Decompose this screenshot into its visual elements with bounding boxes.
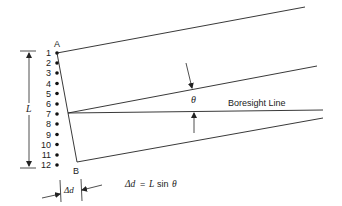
element-label: 4 [46, 79, 51, 89]
element-dot [55, 112, 59, 116]
element-dot [55, 92, 59, 96]
element-dot [55, 71, 59, 75]
element-dot [55, 133, 59, 137]
element-label: 10 [41, 140, 51, 150]
element-label: 12 [41, 160, 51, 170]
element-label: 3 [46, 68, 51, 78]
ray-top [57, 7, 305, 53]
element-dot [55, 82, 59, 86]
element-label: 1 [46, 48, 51, 58]
ray-bottom [77, 118, 323, 162]
element-label: 11 [42, 150, 51, 160]
element-label: 6 [46, 99, 51, 109]
element-label: 7 [46, 109, 51, 119]
wavefront-line [57, 53, 77, 162]
element-label: 9 [46, 130, 51, 140]
element-dot [55, 102, 59, 106]
element-label: 2 [46, 58, 51, 68]
element-dot [55, 122, 59, 126]
element-dot [55, 153, 59, 157]
angle-label: θ [191, 94, 196, 105]
delta-d-label: Δd [63, 185, 74, 195]
equation-lhs: Δd [124, 179, 136, 189]
array-elements [55, 51, 59, 167]
equation-equals: = [140, 179, 145, 189]
aperture-label: L [25, 103, 32, 114]
equation-theta: θ [172, 179, 177, 189]
element-label: 5 [46, 89, 51, 99]
element-dot [55, 143, 59, 147]
element-label: 8 [46, 119, 51, 129]
boresight-label: Boresight Line [228, 98, 286, 108]
end-b-label: B [73, 166, 79, 176]
end-a-label: A [54, 39, 60, 49]
element-dot [55, 163, 59, 167]
element-labels: 1 2 3 4 5 6 7 8 9 10 11 12 [41, 48, 51, 170]
equation: Δd = L sin θ [124, 179, 177, 189]
equation-sin: sin [157, 179, 169, 189]
phased-array-diagram: 1 2 3 4 5 6 7 8 9 10 11 12 A B L θ Bores… [0, 0, 342, 206]
equation-L: L [148, 179, 154, 189]
boresight-line [68, 110, 323, 113]
